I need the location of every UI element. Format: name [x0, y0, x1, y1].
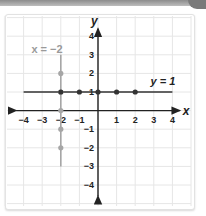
y-tick-label: −2	[84, 143, 94, 153]
data-point	[58, 145, 63, 150]
x-tick-label: 4	[170, 115, 175, 125]
coordinate-plane: xy−4−3−2−112344321−1−2−3−4y = 1x = −2	[0, 0, 206, 216]
x-tick-label: −3	[37, 115, 47, 125]
data-point	[58, 71, 63, 76]
data-point	[114, 89, 119, 94]
y-axis-label: y	[90, 14, 99, 28]
data-point	[58, 108, 63, 113]
data-point	[58, 89, 63, 94]
y-tick-label: 2	[89, 68, 94, 78]
y-tick-label: −3	[84, 161, 94, 171]
x-tick-label: −1	[74, 115, 84, 125]
x-tick-label: 3	[151, 115, 156, 125]
label-y-equals-1: y = 1	[150, 75, 176, 87]
x-tick-label: −4	[18, 115, 28, 125]
x-axis-label: x	[182, 104, 191, 118]
y-tick-label: −4	[84, 180, 94, 190]
data-point	[58, 127, 63, 132]
y-tick-label: 3	[89, 50, 94, 60]
y-tick-label: 4	[89, 31, 94, 41]
data-point	[133, 89, 138, 94]
label-x-equals-neg2: x = −2	[31, 43, 62, 55]
data-point	[95, 89, 100, 94]
y-tick-label: −1	[84, 124, 94, 134]
data-point	[77, 89, 82, 94]
x-tick-label: 1	[114, 115, 119, 125]
x-tick-label: 2	[133, 115, 138, 125]
